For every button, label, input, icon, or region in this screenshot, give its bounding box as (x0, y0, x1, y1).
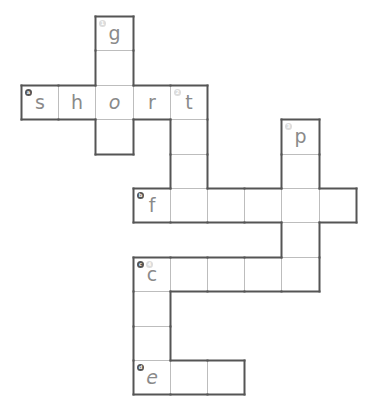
clue-number-badge: 1 (99, 20, 106, 27)
crossword-cell[interactable] (281, 154, 320, 189)
crossword-cell[interactable]: h (58, 85, 96, 120)
clue-number-badge: a (25, 89, 32, 96)
crossword-cell[interactable]: p3 (281, 119, 320, 155)
cell-letter: r (134, 93, 170, 112)
crossword-cell[interactable] (207, 188, 245, 223)
crossword-grid: g1sahort2p3fbcc4ed (0, 0, 376, 408)
crossword-cell[interactable] (207, 360, 245, 395)
cell-letter: h (59, 93, 95, 112)
crossword-cell[interactable] (133, 291, 171, 327)
crossword-cell[interactable] (170, 119, 208, 155)
crossword-cell[interactable]: fb (133, 188, 171, 223)
crossword-cell[interactable] (281, 257, 320, 292)
clue-number-badge: c (137, 261, 144, 268)
clue-number-badge: 2 (174, 89, 181, 96)
crossword-cell[interactable] (244, 257, 282, 292)
crossword-cell[interactable]: o (95, 85, 134, 120)
crossword-cell[interactable] (170, 188, 208, 223)
crossword-cell[interactable] (207, 257, 245, 292)
crossword-cell[interactable] (133, 326, 171, 361)
crossword-cell[interactable] (170, 257, 208, 292)
crossword-cell[interactable]: r (133, 85, 171, 120)
crossword-cell[interactable] (95, 50, 134, 86)
clue-number-badge: d (137, 364, 144, 371)
crossword-cell[interactable]: sa (21, 85, 59, 120)
crossword-cell[interactable] (319, 188, 357, 223)
crossword-cell[interactable] (95, 119, 134, 155)
crossword-cell[interactable]: ed (133, 360, 171, 395)
clue-number-badge: b (137, 192, 144, 199)
clue-number-badge: 3 (285, 123, 292, 130)
crossword-cell[interactable] (244, 188, 282, 223)
clue-number-badge: 4 (146, 261, 153, 268)
crossword-cell[interactable] (281, 188, 320, 223)
crossword-cell[interactable]: g1 (95, 16, 134, 51)
crossword-cell[interactable] (170, 360, 208, 395)
cell-letter: o (96, 93, 133, 112)
crossword-cell[interactable]: t2 (170, 85, 208, 120)
crossword-cell[interactable] (281, 222, 320, 258)
crossword-cell[interactable]: cc4 (133, 257, 171, 292)
crossword-cell[interactable] (170, 154, 208, 189)
